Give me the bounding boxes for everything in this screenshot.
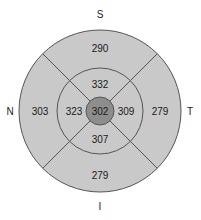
value-outer-nasal: 303 (32, 106, 49, 117)
value-inner-inferior: 307 (92, 134, 109, 145)
value-inner-superior: 332 (92, 79, 109, 90)
value-outer-temporal: 279 (152, 106, 169, 117)
value-inner-nasal: 323 (66, 106, 83, 117)
value-outer-superior: 290 (92, 43, 109, 54)
value-inner-temporal: 309 (118, 106, 135, 117)
etdrs-grid-figure: 290 303 279 279 332 323 309 307 302 S N … (0, 0, 201, 220)
value-center: 302 (92, 106, 109, 117)
etdrs-grid-svg: 290 303 279 279 332 323 309 307 302 S N … (0, 0, 201, 220)
value-outer-inferior: 279 (92, 170, 109, 181)
label-nasal: N (6, 106, 13, 117)
label-superior: S (97, 9, 104, 20)
label-temporal: T (187, 106, 193, 117)
label-inferior: I (99, 201, 102, 212)
